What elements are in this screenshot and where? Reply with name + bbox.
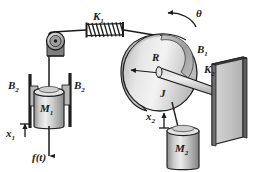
rod-k2-cap [156, 67, 162, 77]
label-force: f(t) [32, 151, 46, 164]
label-r: R [151, 51, 159, 63]
wall-face [212, 57, 243, 145]
label-theta: θ [196, 7, 202, 19]
spring-bottom-rail [87, 35, 123, 36]
fixed-wall-support [212, 57, 247, 146]
figure-canvas: K1 θ B1 R J K2 B2 B2 [0, 0, 259, 172]
label-j: J [159, 87, 166, 99]
spring-top-rail [87, 24, 123, 25]
pulley-axle [54, 39, 57, 42]
wall-right-edge [243, 57, 247, 138]
mechanical-system-figure: K1 θ B1 R J K2 B2 B2 [0, 0, 259, 172]
mass-m1-collar [39, 86, 59, 92]
pulley-assembly [47, 32, 65, 56]
mass-m2-collar [172, 125, 194, 131]
